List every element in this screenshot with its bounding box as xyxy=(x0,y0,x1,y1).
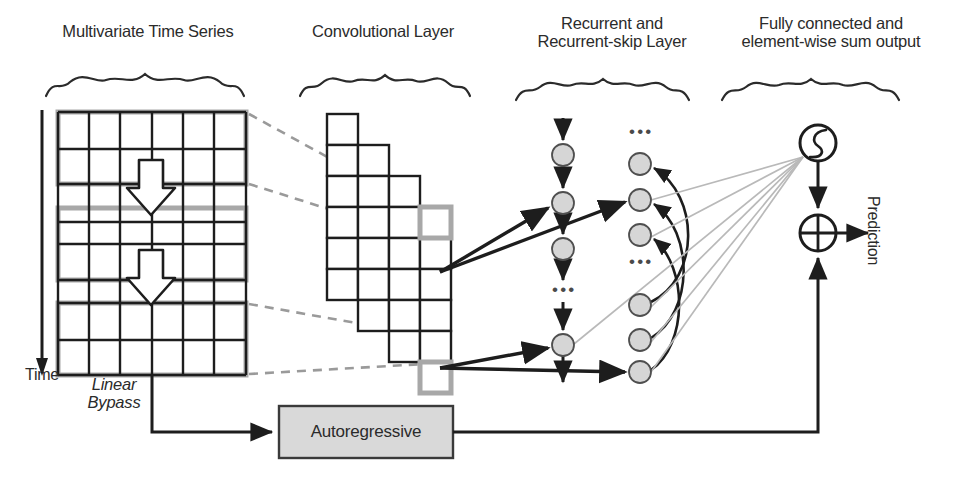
linear-bypass-path xyxy=(152,376,272,432)
recurrent-node-3 xyxy=(552,238,574,260)
slide-arrow-bottom xyxy=(127,250,175,305)
conv-cell-c1-r0 xyxy=(358,145,389,176)
fc-line-2 xyxy=(651,157,803,237)
prediction-label: Prediction xyxy=(864,196,882,265)
conv-cell-c0-r2 xyxy=(327,176,358,207)
time-axis-label: Time xyxy=(8,366,76,384)
skip-ellipsis-mid: ••• xyxy=(629,252,653,272)
conv-cell-c3-r1 xyxy=(420,238,451,269)
section-label-input: Multivariate Time Series xyxy=(38,22,258,40)
recurrent-node-4 xyxy=(552,334,574,356)
input-grid-lines xyxy=(58,112,246,375)
fc-line-5 xyxy=(651,157,803,372)
conv-cell-c0-r3 xyxy=(327,207,358,238)
conv-cell-c3-r4 xyxy=(420,331,451,362)
elementwise-sum-node xyxy=(800,215,836,251)
brace-multivariate-time-series xyxy=(46,74,244,96)
section-label-recurrent: Recurrent and Recurrent-skip Layer xyxy=(512,14,712,51)
figure-canvas: Multivariate Time Series Convolutional L… xyxy=(0,0,953,484)
conv-to-recurrent-arrows xyxy=(440,202,625,372)
conv-cell-c0-r0 xyxy=(327,114,358,145)
skip-node-3 xyxy=(629,224,651,246)
fully-connected-fan-lines xyxy=(574,157,803,372)
conv-cell-c0-r4 xyxy=(327,238,358,269)
dash-bottom-lower xyxy=(249,364,424,374)
conv-layer-cells xyxy=(327,114,451,393)
recurrent-ellipsis: ••• xyxy=(552,280,576,300)
conv-cell-highlight-top xyxy=(420,207,451,238)
conv-cell-c2-r0 xyxy=(389,176,420,207)
fc-line-6 xyxy=(574,157,803,344)
time-axis-arrow xyxy=(36,110,48,376)
conv-cell-c1-r1 xyxy=(358,176,389,207)
skip-node-1 xyxy=(629,153,651,175)
conv-to-skip-bottom xyxy=(440,368,625,372)
linear-bypass-label: Linear Bypass xyxy=(80,376,148,412)
conv-to-skip-top xyxy=(440,202,625,272)
conv-cell-c2-r2 xyxy=(389,238,420,269)
conv-cell-c1-r2 xyxy=(358,207,389,238)
skip-node-5 xyxy=(629,329,651,351)
conv-to-recurrent-bottom xyxy=(440,348,548,368)
conv-cell-c1-r4 xyxy=(358,269,389,300)
skip-node-2 xyxy=(629,189,651,211)
conv-to-recurrent-top xyxy=(440,208,548,272)
conv-cell-c2-r3 xyxy=(389,269,420,300)
skip-ellipsis-top: ••• xyxy=(629,122,653,142)
sigmoid-activation-node xyxy=(800,125,836,161)
conv-cell-c1-r3 xyxy=(358,238,389,269)
skip-node-6 xyxy=(629,361,651,383)
conv-cell-c2-r1 xyxy=(389,207,420,238)
section-label-output: Fully connected and element-wise sum out… xyxy=(718,14,944,51)
conv-cell-c2-r5 xyxy=(389,331,420,362)
section-label-convolutional: Convolutional Layer xyxy=(288,22,478,40)
brace-convolutional-layer xyxy=(300,75,470,96)
conv-cell-c2-r4 xyxy=(389,300,420,331)
recurrent-node-1 xyxy=(552,144,574,166)
conv-cell-c0-r1 xyxy=(327,145,358,176)
brace-output-layer xyxy=(722,79,899,100)
brace-recurrent-layer xyxy=(516,79,689,100)
skip-node-4 xyxy=(629,294,651,316)
skip-curve-6-to-3 xyxy=(651,239,679,370)
fc-line-3 xyxy=(651,157,803,307)
conv-cell-c0-r5 xyxy=(327,269,358,300)
conv-cell-c3-r3 xyxy=(420,300,451,331)
conv-cell-c3-r2 xyxy=(420,269,451,300)
recurrent-node-2 xyxy=(552,192,574,214)
autoregressive-label: Autoregressive xyxy=(279,422,453,441)
conv-cell-c1-r5 xyxy=(358,300,389,331)
